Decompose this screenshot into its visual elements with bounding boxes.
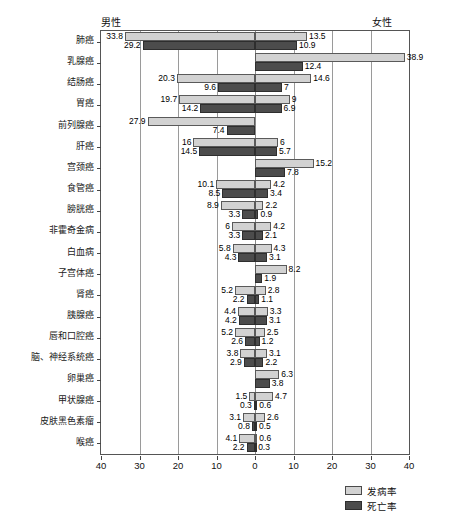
- mortality-bar-pair: 4.33.1: [101, 253, 409, 262]
- x-axis-tick-label: 0: [252, 460, 257, 471]
- chart-row: 4.10.62.20.3: [101, 433, 409, 454]
- chart-row: 19.7914.26.9: [101, 94, 409, 115]
- bar-value-label: 3.8: [272, 379, 284, 388]
- bar-value-label: 2.9: [230, 358, 242, 367]
- category-label: 宫颈癌: [67, 157, 94, 178]
- bar-female-mortality: [255, 443, 257, 452]
- bar-value-label: 0.5: [259, 422, 271, 431]
- bar-male-incidence: [233, 244, 255, 253]
- bar-value-label: 7.8: [287, 168, 299, 177]
- bar-female-incidence: [255, 307, 268, 316]
- incidence-bar-pair: 4.10.6: [101, 434, 409, 443]
- bar-value-label: 0.3: [240, 401, 252, 410]
- legend-label: 发病率: [367, 484, 397, 498]
- category-label: 肺癌: [76, 30, 94, 51]
- incidence-bar-pair: 5.22.5: [101, 328, 409, 337]
- bar-male-incidence: [238, 307, 255, 316]
- mortality-bar-pair: 01.9: [101, 274, 409, 283]
- bar-value-label: 3.3: [228, 231, 240, 240]
- x-axis-tick-label: 30: [134, 460, 145, 471]
- x-axis-tick-label: 10: [211, 460, 222, 471]
- incidence-bar-pair: 038.9: [101, 53, 409, 62]
- mortality-bar-pair: 0.30.6: [101, 401, 409, 410]
- x-axis: 40302010010203040: [100, 456, 410, 474]
- bar-value-label: 9.6: [204, 83, 216, 92]
- mortality-bar-pair: 012.4: [101, 62, 409, 71]
- bar-value-label: 0.9: [260, 210, 272, 219]
- mortality-bar-pair: 07.8: [101, 168, 409, 177]
- bar-male-incidence: [148, 117, 255, 126]
- category-label: 胃癌: [76, 93, 94, 114]
- bar-value-label: 6.3: [281, 370, 293, 379]
- bar-male-mortality: [227, 126, 255, 135]
- bar-female-mortality: [255, 274, 262, 283]
- mortality-bar-pair: 03.8: [101, 379, 409, 388]
- chart-row: 33.813.529.210.9: [101, 31, 409, 52]
- legend-label: 死亡率: [367, 499, 397, 513]
- bar-male-incidence: [193, 138, 255, 147]
- bar-value-label: 3.1: [269, 316, 281, 325]
- incidence-bar-pair: 166: [101, 138, 409, 147]
- mortality-bar-pair: 3.30.9: [101, 210, 409, 219]
- chart-row: 038.9012.4: [101, 52, 409, 73]
- male-panel-header: 男性: [101, 14, 121, 29]
- bar-female-mortality: [255, 147, 277, 156]
- x-axis-tick-label: 40: [404, 460, 415, 471]
- bar-female-incidence: [255, 138, 278, 147]
- category-label: 喉癌: [76, 432, 94, 453]
- incidence-bar-pair: 64.2: [101, 222, 409, 231]
- category-label: 乳腺癌: [67, 51, 94, 72]
- category-label: 甲状腺癌: [58, 390, 94, 411]
- mortality-bar-pair: 14.26.9: [101, 104, 409, 113]
- chart-row: 8.92.23.30.9: [101, 200, 409, 221]
- chart-row: 5.22.82.21.1: [101, 285, 409, 306]
- bar-female-mortality: [255, 104, 282, 113]
- x-axis-tick-label: 30: [365, 460, 376, 471]
- bar-female-mortality: [255, 337, 260, 346]
- bar-value-label: 2.6: [231, 337, 243, 346]
- bar-female-mortality: [255, 379, 270, 388]
- mortality-bar-pair: 9.67: [101, 83, 409, 92]
- bar-female-incidence: [255, 434, 257, 443]
- incidence-bar-pair: 5.84.3: [101, 244, 409, 253]
- bar-value-label: 8.9: [207, 201, 219, 210]
- bar-female-mortality: [255, 83, 282, 92]
- bar-value-label: 8.2: [289, 265, 301, 274]
- chart-row: 08.201.9: [101, 264, 409, 285]
- category-label: 前列腺癌: [58, 115, 94, 136]
- incidence-bar-pair: 1.54.7: [101, 392, 409, 401]
- bar-value-label: 19.7: [161, 95, 178, 104]
- bar-value-label: 3.1: [269, 253, 281, 262]
- bar-female-mortality: [255, 253, 267, 262]
- bar-value-label: 33.8: [106, 32, 123, 41]
- category-label: 子宫体癌: [58, 263, 94, 284]
- bar-female-mortality: [255, 168, 285, 177]
- bar-male-incidence: [240, 349, 255, 358]
- bar-rows: 33.813.529.210.9038.9012.420.314.69.6719…: [101, 31, 409, 454]
- mortality-bar-pair: 29.210.9: [101, 41, 409, 50]
- category-label: 肝癌: [76, 136, 94, 157]
- incidence-bar-pair: 20.314.6: [101, 74, 409, 83]
- bar-male-mortality: [200, 104, 255, 113]
- category-label: 皮肤黑色素瘤: [40, 411, 94, 432]
- bar-value-label: 2.2: [233, 443, 245, 452]
- bar-female-mortality: [255, 41, 297, 50]
- chart-row: 015.207.8: [101, 158, 409, 179]
- chart-row: 20.314.69.67: [101, 73, 409, 94]
- bar-female-mortality: [255, 210, 258, 219]
- bar-value-label: 14.5: [181, 147, 198, 156]
- bar-value-label: 2.1: [265, 231, 277, 240]
- x-axis-tick-label: 10: [288, 460, 299, 471]
- bar-male-mortality: [199, 147, 255, 156]
- incidence-bar-pair: 3.83.1: [101, 349, 409, 358]
- bar-male-mortality: [239, 316, 255, 325]
- category-label-axis: 肺癌乳腺癌结肠癌胃癌前列腺癌肝癌宫颈癌食管癌膀胱癌非霍奇金病白血病子宫体癌肾癌胰…: [0, 30, 97, 455]
- incidence-bar-pair: 5.22.8: [101, 286, 409, 295]
- bar-female-mortality: [255, 189, 268, 198]
- bar-male-mortality: [143, 41, 255, 50]
- bar-value-label: 4.7: [275, 392, 287, 401]
- incidence-bar-pair: 015.2: [101, 159, 409, 168]
- chart-row: 16614.55.7: [101, 137, 409, 158]
- bar-value-label: 29.2: [124, 41, 141, 50]
- bar-male-mortality: [247, 295, 255, 304]
